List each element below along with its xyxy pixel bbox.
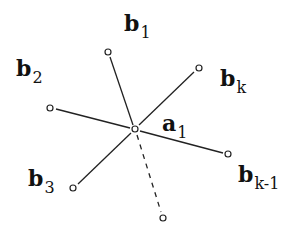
edge-a1-b3 — [78, 133, 131, 184]
edge-a1-b2 — [56, 109, 130, 128]
edge-a1-dashed — [137, 135, 161, 212]
node-b1 — [105, 49, 111, 55]
label-bk-1: bk-1 — [238, 163, 279, 185]
label-b2: b2 — [16, 57, 43, 79]
label-b1: b1 — [124, 12, 151, 34]
label-bk: bk — [220, 67, 246, 89]
node-b3 — [70, 185, 76, 191]
node-bk-1 — [225, 151, 231, 157]
node-b2 — [47, 105, 53, 111]
label-b3: b3 — [28, 167, 55, 189]
node-unlabeled — [160, 215, 166, 221]
label-a1: a1 — [162, 112, 187, 134]
node-a1 — [132, 126, 138, 132]
star-graph-diagram: a1 b1 b2 b3 bk bk-1 — [0, 0, 297, 238]
node-bk — [196, 65, 202, 71]
edge-a1-b1 — [110, 57, 133, 125]
